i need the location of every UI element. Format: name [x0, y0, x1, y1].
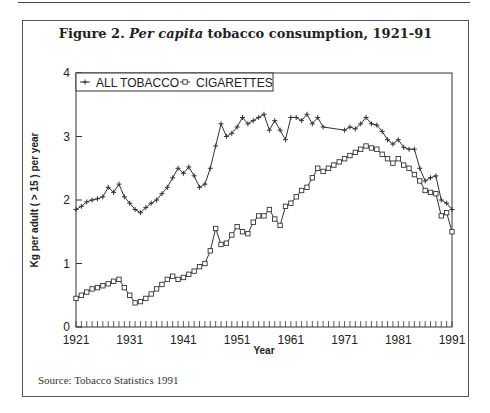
chart-axes: 0123419211931194119511961197119811991Yea…	[29, 66, 466, 356]
square-marker-icon	[111, 279, 115, 283]
plus-marker-icon	[224, 134, 229, 139]
legend-label: CIGARETTES	[196, 76, 273, 90]
plus-marker-icon	[272, 118, 277, 123]
square-marker-icon	[85, 290, 89, 294]
square-marker-icon	[122, 285, 126, 289]
square-marker-icon	[369, 146, 373, 150]
plus-marker-icon	[267, 128, 272, 133]
plus-marker-icon	[412, 147, 417, 152]
chart-series	[74, 112, 455, 305]
plus-marker-icon	[288, 115, 293, 120]
plus-marker-icon	[95, 196, 100, 201]
plus-marker-icon	[90, 198, 95, 203]
y-axis-title: Kg per adult ( > 15 ) per year	[29, 133, 40, 268]
square-marker-icon	[149, 292, 153, 296]
square-marker-icon	[251, 220, 255, 224]
square-marker-icon	[299, 188, 303, 192]
plus-marker-icon	[213, 144, 218, 149]
square-marker-icon	[106, 282, 110, 286]
square-marker-icon	[412, 172, 416, 176]
x-tick-label: 1971	[331, 333, 358, 347]
square-marker-icon	[230, 233, 234, 237]
square-marker-icon	[428, 190, 432, 194]
legend-label: ALL TOBACCO	[96, 76, 179, 90]
square-marker-icon	[444, 211, 448, 215]
square-marker-icon	[332, 163, 336, 167]
square-marker-icon	[101, 284, 105, 288]
plus-marker-icon	[347, 124, 352, 129]
square-marker-icon	[160, 282, 164, 286]
square-marker-icon	[273, 217, 277, 221]
chart-legend: ALL TOBACCOCIGARETTES	[76, 73, 273, 91]
square-marker-icon	[133, 301, 137, 305]
square-marker-icon	[128, 293, 132, 297]
y-tick-label: 1	[63, 257, 70, 271]
square-marker-icon	[203, 261, 207, 265]
plus-marker-icon	[433, 173, 438, 178]
plus-marker-icon	[116, 182, 121, 187]
plus-marker-icon	[74, 207, 79, 212]
square-marker-icon	[165, 277, 169, 281]
square-marker-icon	[316, 166, 320, 170]
x-tick-label: 1921	[63, 333, 90, 347]
square-marker-icon	[294, 195, 298, 199]
plus-marker-icon	[428, 175, 433, 180]
plus-marker-icon	[407, 147, 412, 152]
y-tick-label: 4	[63, 66, 70, 80]
line-chart: 0123419211931194119511961197119811991Yea…	[0, 0, 490, 413]
square-marker-icon	[197, 264, 201, 268]
series-cigarettes	[74, 144, 454, 305]
square-marker-icon	[375, 147, 379, 151]
square-marker-icon	[434, 191, 438, 195]
square-marker-icon	[305, 185, 309, 189]
x-tick-label: 1961	[278, 333, 305, 347]
y-tick-label: 3	[63, 130, 70, 144]
square-marker-icon	[348, 153, 352, 157]
plus-marker-icon	[256, 115, 261, 120]
square-marker-icon	[240, 230, 244, 234]
square-marker-icon	[407, 166, 411, 170]
square-marker-icon	[267, 207, 271, 211]
square-marker-icon	[181, 275, 185, 279]
square-marker-icon	[391, 161, 395, 165]
plus-marker-icon	[283, 137, 288, 142]
square-marker-icon	[278, 223, 282, 227]
plus-marker-icon	[294, 115, 299, 120]
square-marker-icon	[117, 277, 121, 281]
square-marker-icon	[256, 214, 260, 218]
square-marker-icon	[192, 269, 196, 273]
square-marker-icon	[170, 274, 174, 278]
square-marker-icon	[213, 226, 217, 230]
square-marker-icon	[401, 163, 405, 167]
plus-marker-icon	[321, 124, 326, 129]
plus-marker-icon	[342, 128, 347, 133]
x-tick-label: 1951	[224, 333, 251, 347]
square-marker-icon	[176, 277, 180, 281]
plus-marker-icon	[170, 175, 175, 180]
plus-marker-icon	[278, 128, 283, 133]
plus-marker-icon	[208, 166, 213, 171]
square-marker-icon	[74, 296, 78, 300]
plus-marker-icon	[262, 112, 267, 117]
x-tick-label: 1981	[385, 333, 412, 347]
plus-marker-icon	[197, 185, 202, 190]
square-marker-icon	[450, 230, 454, 234]
square-marker-icon	[418, 179, 422, 183]
square-marker-icon	[90, 287, 94, 291]
square-marker-icon	[364, 144, 368, 148]
square-marker-icon	[289, 201, 293, 205]
x-tick-label: 1991	[439, 333, 466, 347]
plus-marker-icon	[219, 121, 224, 126]
series-line	[76, 146, 452, 303]
square-marker-icon	[246, 231, 250, 235]
square-marker-icon	[183, 80, 187, 84]
square-marker-icon	[144, 296, 148, 300]
series-line	[76, 114, 452, 212]
square-marker-icon	[321, 169, 325, 173]
square-marker-icon	[154, 287, 158, 291]
x-axis-title: Year	[253, 345, 274, 356]
plus-marker-icon	[439, 198, 444, 203]
square-marker-icon	[224, 241, 228, 245]
plus-marker-icon	[251, 118, 256, 123]
square-marker-icon	[310, 176, 314, 180]
